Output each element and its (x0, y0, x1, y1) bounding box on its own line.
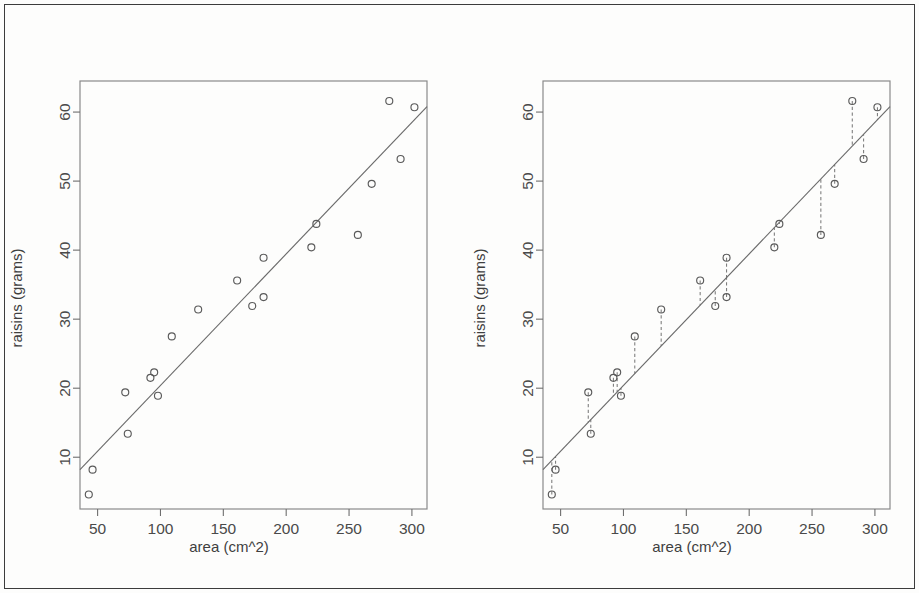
data-point (154, 392, 161, 399)
x-tick-label: 300 (399, 520, 425, 537)
data-point (397, 156, 404, 163)
y-axis-title: raisins (grams) (471, 248, 488, 347)
x-tick-label: 50 (89, 520, 107, 537)
x-axis-title: area (cm^2) (652, 538, 732, 555)
x-tick-label: 200 (736, 520, 762, 537)
y-tick-label: 10 (519, 448, 536, 466)
data-point (122, 389, 129, 396)
x-tick-label: 200 (273, 520, 299, 537)
regression-line (80, 107, 427, 470)
x-tick-label: 150 (210, 520, 236, 537)
plot-frame (80, 81, 427, 509)
x-tick-label: 250 (799, 520, 825, 537)
y-tick-label: 40 (519, 241, 536, 259)
data-point (313, 220, 320, 227)
y-tick-label: 40 (56, 241, 73, 259)
plot-panel-left: 50100150200250300102030405060 area (cm^2… (0, 0, 459, 593)
y-tick-label: 10 (56, 448, 73, 466)
x-tick-label: 300 (862, 520, 888, 537)
y-tick-label: 30 (519, 310, 536, 328)
plot-frame (543, 81, 890, 509)
x-tick-label: 100 (611, 520, 637, 537)
data-point (85, 491, 92, 498)
data-point (195, 306, 202, 313)
x-tick-label: 100 (148, 520, 174, 537)
data-point (411, 104, 418, 111)
data-point (386, 98, 393, 105)
y-tick-label: 60 (56, 103, 73, 121)
data-point (354, 231, 361, 238)
data-point (260, 254, 267, 261)
data-point (308, 244, 315, 251)
y-tick-label: 50 (56, 172, 73, 190)
plot-right-content: 50100150200250300102030405060 (519, 81, 890, 537)
figure-page: 50100150200250300102030405060 area (cm^2… (0, 0, 919, 593)
plot-left-content: 50100150200250300102030405060 (56, 81, 427, 537)
data-point (234, 277, 241, 284)
data-point (89, 466, 96, 473)
x-tick-label: 250 (336, 520, 362, 537)
y-tick-label: 50 (519, 172, 536, 190)
plot-panel-right: 50100150200250300102030405060 area (cm^2… (459, 0, 918, 593)
data-point (249, 303, 256, 310)
regression-line (543, 107, 890, 470)
plot-left-svg: 50100150200250300102030405060 area (cm^2… (0, 0, 459, 593)
data-point (168, 333, 175, 340)
y-axis-title: raisins (grams) (8, 248, 25, 347)
y-tick-label: 20 (519, 379, 536, 397)
data-point (124, 430, 131, 437)
plot-right-svg: 50100150200250300102030405060 area (cm^2… (459, 0, 918, 593)
y-tick-label: 30 (56, 310, 73, 328)
y-tick-label: 60 (519, 103, 536, 121)
y-tick-label: 20 (56, 379, 73, 397)
x-axis-title: area (cm^2) (189, 538, 269, 555)
data-point (368, 180, 375, 187)
x-tick-label: 150 (673, 520, 699, 537)
data-point (151, 369, 158, 376)
data-point (260, 294, 267, 301)
x-tick-label: 50 (552, 520, 570, 537)
